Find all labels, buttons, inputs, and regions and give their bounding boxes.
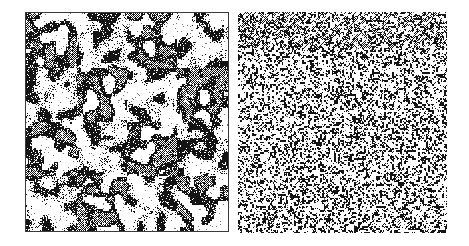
raster-canvas-uncorrelated bbox=[238, 12, 447, 233]
raster-canvas-correlated bbox=[26, 13, 228, 231]
panel-correlated-field bbox=[25, 12, 229, 232]
panel-uncorrelated-noise bbox=[238, 12, 447, 233]
figure-root bbox=[0, 0, 469, 246]
